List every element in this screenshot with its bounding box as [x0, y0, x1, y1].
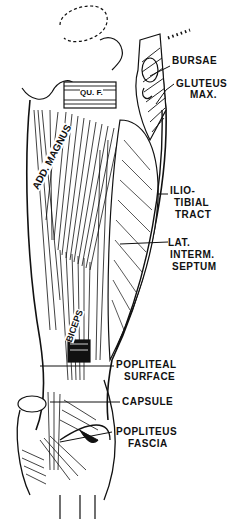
label-capsule: CAPSULE: [122, 397, 173, 407]
label-gluteus-max-line2: MAX.: [190, 90, 217, 100]
label-bursae: BURSAE: [172, 56, 217, 66]
pelvis-dashed-outline: [60, 6, 107, 42]
label-iliotibial-line2: TIBIAL: [174, 198, 209, 208]
label-iliotibial-line1: ILIO-: [170, 186, 195, 196]
label-popliteal-line1: POPLITEAL: [116, 360, 177, 370]
label-popliteal-line2: SURFACE: [124, 372, 175, 382]
label-gluteus-max-line1: GLUTEUS: [176, 79, 227, 89]
label-lat-septum-line2: INTERM.: [170, 250, 215, 260]
label-popliteus-line2: FASCIA: [128, 439, 168, 449]
label-iliotibial-line3: TRACT: [175, 210, 211, 220]
label-popliteus-line1: POPLITEUS: [116, 427, 177, 437]
label-quadratus-femoris: QU. F.: [80, 88, 103, 97]
label-lat-septum-line3: SEPTUM: [172, 262, 217, 272]
dotted-continuation: [168, 30, 190, 38]
label-lat-septum-line1: LAT.: [168, 238, 190, 248]
